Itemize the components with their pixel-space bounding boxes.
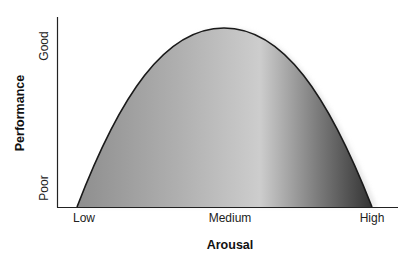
x-tick-low: Low bbox=[73, 211, 95, 225]
x-tick-high: High bbox=[360, 211, 385, 225]
chart-plot bbox=[0, 0, 411, 258]
x-tick-medium: Medium bbox=[209, 211, 252, 225]
y-tick-poor: Poor bbox=[37, 175, 51, 200]
inverted-u-chart: Low Medium High Poor Good Arousal Perfor… bbox=[0, 0, 411, 258]
y-axis-title: Performance bbox=[13, 75, 27, 151]
y-tick-good: Good bbox=[37, 31, 51, 60]
performance-area bbox=[77, 28, 372, 207]
x-axis-title: Arousal bbox=[207, 238, 254, 252]
